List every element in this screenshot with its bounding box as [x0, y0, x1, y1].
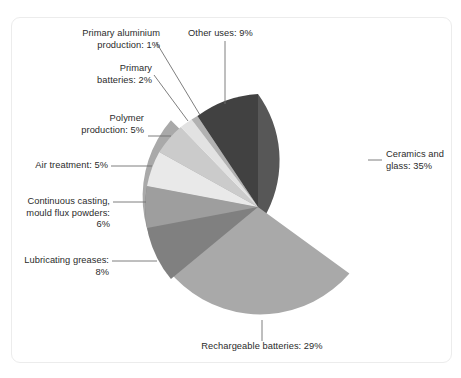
label-other-uses: Other uses: 9%: [188, 28, 288, 40]
label-lubricating-greases: Lubricating greases: 8%: [18, 255, 109, 278]
leader-line-primary-batteries: [154, 75, 188, 121]
label-continuous-casting: Continuous casting, mould flux powders: …: [15, 196, 110, 231]
leader-line-primary-aluminium: [156, 42, 200, 115]
label-air-treatment: Air treatment: 5%: [20, 160, 108, 172]
label-ceramics-and-glass: Ceramics and glass: 35%: [386, 149, 458, 172]
label-primary-batteries: Primary batteries: 2%: [66, 63, 152, 86]
label-rechargeable-batteries: Rechargeable batteries: 29%: [182, 341, 342, 353]
pie-chart-figure: [0, 0, 461, 378]
label-polymer-production: Polymer production: 5%: [48, 113, 144, 136]
label-primary-aluminium: Primary aluminium production: 1%: [48, 28, 160, 51]
